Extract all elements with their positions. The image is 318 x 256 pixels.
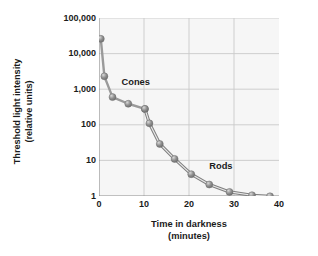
- x-tick-label-1: 10: [124, 200, 164, 209]
- y-tick-label-1: 10,000: [26, 49, 96, 58]
- x-axis-title-line1: Time in darkness: [151, 219, 227, 229]
- annotation-cones: Cones: [122, 77, 150, 87]
- x-tick-label-4: 40: [259, 200, 299, 209]
- plot-svg: [99, 18, 279, 196]
- plot-area: [99, 18, 279, 196]
- annotation-rods: Rods: [209, 161, 232, 171]
- y-axis-title-line2: (relative units): [23, 17, 35, 207]
- x-tick-label-0: 0: [79, 200, 119, 209]
- dark-adaptation-chart: Threshold light intensity (relative unit…: [0, 0, 318, 256]
- y-axis-title-line1: Threshold light intensity: [12, 59, 22, 164]
- x-tick-label-3: 30: [214, 200, 254, 209]
- series-cones: [99, 35, 148, 112]
- y-axis-title: Threshold light intensity (relative unit…: [12, 17, 35, 207]
- x-tick-label-2: 20: [169, 200, 209, 209]
- x-axis-title: Time in darkness (minutes): [99, 219, 279, 242]
- y-tick-label-3: 100: [26, 120, 96, 129]
- y-tick-label-2: 1,000: [26, 85, 96, 94]
- x-axis-title-line2: (minutes): [99, 231, 279, 243]
- series-rods: [141, 105, 273, 196]
- y-tick-label-4: 10: [26, 156, 96, 165]
- gridlines: [99, 18, 279, 196]
- y-tick-label-0: 100,000: [26, 14, 96, 23]
- data-series-layer: [99, 35, 274, 196]
